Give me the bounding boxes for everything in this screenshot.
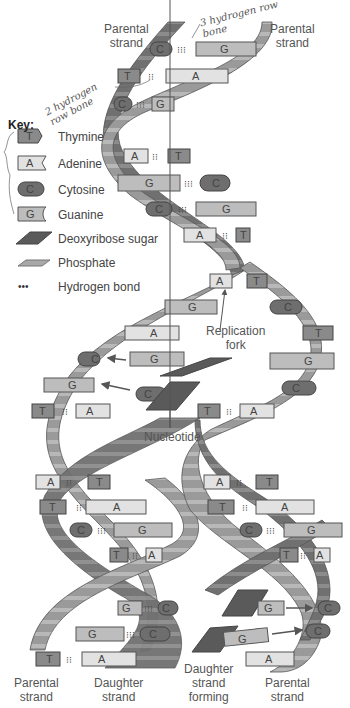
svg-text:⁝⁝⁝: ⁝⁝⁝ <box>136 100 145 110</box>
svg-text:C: C <box>144 388 152 400</box>
svg-text:T: T <box>266 476 273 488</box>
label-replication-fork: Replication fork <box>206 324 265 352</box>
svg-text:G: G <box>156 98 165 110</box>
svg-text:⁝⁝: ⁝⁝ <box>226 407 232 417</box>
svg-text:T: T <box>204 405 211 417</box>
svg-text:C: C <box>324 602 332 614</box>
svg-text:⁝⁝: ⁝⁝ <box>62 407 68 417</box>
svg-text:A: A <box>281 501 289 513</box>
svg-text:⁝⁝⁝: ⁝⁝⁝ <box>177 45 186 55</box>
svg-text:⁝⁝⁝: ⁝⁝⁝ <box>126 630 135 640</box>
key-adenine: Adenine <box>58 157 102 171</box>
svg-text:T: T <box>283 549 290 561</box>
svg-text:T: T <box>46 653 53 665</box>
svg-text:⁝⁝: ⁝⁝ <box>132 551 138 561</box>
svg-text:⁝⁝⁝: ⁝⁝⁝ <box>178 205 187 215</box>
svg-text:A: A <box>196 229 204 241</box>
svg-text:T: T <box>39 405 46 417</box>
key-deoxyribose: Deoxyribose sugar <box>58 232 158 246</box>
svg-text:T: T <box>315 327 322 339</box>
svg-text:T: T <box>113 549 120 561</box>
key-cytosine: Cytosine <box>58 183 105 197</box>
svg-text:⁝⁝: ⁝⁝ <box>66 478 72 488</box>
svg-text:T: T <box>96 476 103 488</box>
svg-text:G: G <box>26 208 35 220</box>
svg-text:A: A <box>316 549 324 561</box>
svg-text:G: G <box>304 355 313 367</box>
key-symbols: T A C G ••• <box>4 129 52 292</box>
svg-text:G: G <box>188 301 197 313</box>
key-phosphate: Phosphate <box>58 256 115 270</box>
svg-text:A: A <box>113 501 121 513</box>
svg-text:G: G <box>307 524 316 536</box>
svg-text:G: G <box>138 524 147 536</box>
label-parental-bottom-left: Parental strand <box>14 676 59 704</box>
svg-text:T: T <box>253 275 260 287</box>
key-thymine: Thymine <box>58 130 104 144</box>
svg-text:A: A <box>98 653 106 665</box>
svg-text:⁝⁝: ⁝⁝ <box>222 231 228 241</box>
svg-text:A: A <box>216 275 224 287</box>
svg-text:C: C <box>118 98 126 110</box>
svg-text:A: A <box>148 549 156 561</box>
base-pairs-top: C G ⁝⁝⁝ T A ⁝⁝ C G ⁝⁝⁝ A T ⁝⁝ G C ⁝⁝⁝ C … <box>114 42 256 242</box>
svg-text:A: A <box>86 405 94 417</box>
svg-text:⁝⁝: ⁝⁝ <box>236 478 242 488</box>
svg-text:G: G <box>264 602 273 614</box>
svg-text:A: A <box>26 157 34 169</box>
svg-text:⁝⁝⁝: ⁝⁝⁝ <box>184 179 193 189</box>
svg-text:C: C <box>26 183 34 195</box>
svg-text:C: C <box>212 177 220 189</box>
key-guanine: Guanine <box>58 208 103 222</box>
svg-text:⁝⁝⁝: ⁝⁝⁝ <box>266 526 275 536</box>
svg-text:A: A <box>131 150 139 162</box>
svg-text:C: C <box>149 628 157 640</box>
svg-text:A: A <box>216 476 224 488</box>
svg-text:⁝⁝: ⁝⁝ <box>242 503 248 513</box>
label-daughter-forming: Daughter strand forming <box>184 662 233 704</box>
svg-text:C: C <box>155 203 163 215</box>
svg-text:G: G <box>220 43 229 55</box>
svg-text:T: T <box>219 501 226 513</box>
label-parental-top-left: Parental strand <box>104 22 149 50</box>
svg-text:G: G <box>68 379 77 391</box>
svg-text:C: C <box>162 602 170 614</box>
svg-text:⁝⁝: ⁝⁝ <box>66 655 72 665</box>
svg-text:G: G <box>238 633 247 645</box>
label-nucleotide: Nucleotide <box>144 430 201 444</box>
svg-text:T: T <box>240 229 247 241</box>
svg-text:⁝⁝: ⁝⁝ <box>76 503 82 513</box>
svg-text:A: A <box>265 653 273 665</box>
key-title: Key: <box>8 118 34 132</box>
svg-text:A: A <box>47 476 55 488</box>
svg-text:T: T <box>49 501 56 513</box>
svg-text:C: C <box>284 301 292 313</box>
svg-text:⁝⁝⁝: ⁝⁝⁝ <box>97 526 106 536</box>
svg-text:⁝⁝⁝: ⁝⁝⁝ <box>144 604 153 614</box>
right-pairs: T ⁝⁝ A A ⁝⁝ T T ⁝⁝ A C ⁝⁝⁝ G T ⁝⁝ A G C … <box>192 404 342 666</box>
svg-text:A: A <box>250 405 258 417</box>
svg-text:G: G <box>150 353 159 365</box>
label-parental-bottom-right: Parental strand <box>265 676 310 704</box>
label-daughter-strand: Daughter strand <box>94 676 143 704</box>
svg-text:⁝⁝: ⁝⁝ <box>152 152 158 162</box>
label-parental-top-right: Parental strand <box>270 22 315 50</box>
svg-text:•••: ••• <box>18 281 29 292</box>
svg-text:T: T <box>124 70 131 82</box>
svg-text:A: A <box>192 70 200 82</box>
svg-text:C: C <box>292 382 300 394</box>
svg-text:G: G <box>222 203 231 215</box>
svg-text:G: G <box>122 602 131 614</box>
key-hydrogen-bond: Hydrogen bond <box>58 280 140 294</box>
svg-text:C: C <box>245 524 253 536</box>
svg-text:G: G <box>145 177 154 189</box>
svg-text:G: G <box>88 628 97 640</box>
svg-text:C: C <box>156 43 164 55</box>
svg-text:C: C <box>91 353 99 365</box>
svg-text:⁝⁝: ⁝⁝ <box>300 551 306 561</box>
svg-text:C: C <box>77 524 85 536</box>
svg-text:T: T <box>175 150 182 162</box>
svg-text:A: A <box>150 327 158 339</box>
svg-text:C: C <box>314 625 322 637</box>
